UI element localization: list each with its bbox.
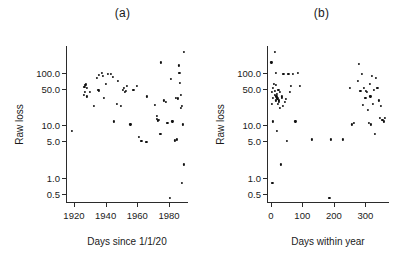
panel-a-y-axis-title-text: Raw loss [14, 104, 25, 145]
data-point [102, 75, 104, 77]
y-tick-a-1 [62, 178, 66, 179]
x-tick-a-3 [169, 203, 170, 207]
data-point [98, 90, 100, 92]
x-tick-a-1 [106, 203, 107, 207]
data-point [180, 94, 182, 96]
data-point [71, 129, 73, 131]
panel-a-plot-area: 0.51.05.010.050.0100.01920194019601980 [66, 46, 188, 203]
x-tick-a-2 [137, 203, 138, 207]
x-tick-label-b-1: 100 [294, 210, 310, 221]
y-tick-label-a-0: 0.5 [47, 188, 60, 199]
data-point [96, 77, 98, 79]
panel-b-y-axis-line [267, 46, 268, 203]
data-point [129, 123, 131, 125]
data-point [126, 84, 128, 86]
data-point [181, 104, 183, 106]
data-point [294, 120, 296, 122]
y-tick-label-a-4: 50.0 [42, 83, 61, 94]
data-point [182, 163, 184, 165]
data-point [349, 87, 351, 89]
data-point [179, 81, 181, 83]
data-point [370, 123, 372, 125]
data-point [117, 80, 119, 82]
data-point [276, 93, 278, 95]
y-tick-label-b-3: 10.0 [243, 120, 262, 131]
data-point [282, 73, 284, 75]
x-tick-b-2 [334, 203, 335, 207]
data-point [271, 91, 273, 93]
data-point [378, 99, 380, 101]
y-tick-a-2 [62, 141, 66, 142]
data-point [376, 87, 378, 89]
data-point [279, 91, 281, 93]
data-point [342, 138, 344, 140]
data-point [366, 91, 368, 93]
data-point [384, 117, 386, 119]
y-tick-label-a-5: 100.0 [36, 68, 60, 79]
data-point [353, 122, 355, 124]
data-point [138, 136, 140, 138]
y-tick-a-3 [62, 125, 66, 126]
x-tick-b-1 [302, 203, 303, 207]
data-point [105, 83, 107, 85]
y-tick-a-4 [62, 89, 66, 90]
data-point [169, 78, 171, 80]
data-point [89, 91, 91, 93]
data-point [110, 73, 112, 75]
data-point [286, 140, 288, 142]
y-tick-b-2 [263, 141, 267, 142]
y-tick-label-b-5: 100.0 [237, 68, 261, 79]
data-point [140, 140, 142, 142]
x-tick-label-a-0: 1920 [63, 210, 84, 221]
data-point [272, 120, 274, 122]
data-point [165, 101, 167, 103]
panel-b-y-axis-title: Raw loss [213, 46, 227, 203]
panel-b-x-axis-line [267, 202, 389, 203]
y-tick-label-b-0: 0.5 [248, 188, 261, 199]
data-point [145, 141, 147, 143]
data-point [271, 103, 273, 105]
y-tick-a-5 [62, 73, 66, 74]
data-point [159, 132, 161, 134]
data-point [178, 64, 180, 66]
y-tick-label-b-4: 50.0 [243, 83, 262, 94]
data-point [116, 103, 118, 105]
data-point [371, 74, 373, 76]
data-point [275, 72, 277, 74]
data-point [125, 90, 127, 92]
x-tick-label-a-2: 1960 [127, 210, 148, 221]
data-point [86, 95, 88, 97]
data-point [290, 84, 292, 86]
x-tick-label-a-3: 1980 [158, 210, 179, 221]
data-point [171, 120, 173, 122]
data-point [273, 51, 275, 53]
data-point [287, 73, 289, 75]
data-point [372, 103, 374, 105]
y-tick-a-0 [62, 194, 66, 195]
data-point [278, 99, 280, 101]
y-tick-label-b-1: 1.0 [248, 172, 261, 183]
data-point [93, 104, 95, 106]
y-tick-label-b-2: 5.0 [248, 136, 261, 147]
data-point [272, 97, 274, 99]
data-point [136, 84, 138, 86]
y-tick-label-a-2: 5.0 [47, 136, 60, 147]
data-point [364, 97, 366, 99]
panel-b: (b) Raw loss 0.51.05.010.050.0100.001002… [201, 0, 402, 265]
data-point [178, 72, 180, 74]
data-point [280, 163, 282, 165]
data-point [270, 61, 272, 63]
data-point [86, 87, 88, 89]
data-point [279, 106, 281, 108]
panel-a-x-axis-title: Days since 1/1/20 [66, 236, 188, 247]
x-tick-label-a-1: 1940 [95, 210, 116, 221]
panel-b-plot-area: 0.51.05.010.050.0100.00100200300 [267, 46, 389, 203]
data-point [154, 104, 156, 106]
data-point [146, 95, 148, 97]
data-point [299, 84, 301, 86]
data-point [160, 61, 162, 63]
y-tick-b-5 [263, 73, 267, 74]
panel-b-title: (b) [221, 6, 402, 20]
data-point [297, 72, 299, 74]
data-point [292, 73, 294, 75]
